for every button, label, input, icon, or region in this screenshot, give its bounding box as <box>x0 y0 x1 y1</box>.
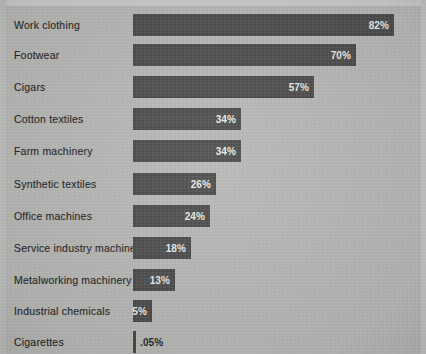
chart-row: Work clothing82% <box>6 14 421 36</box>
category-label: Industrial chemicals <box>14 305 110 317</box>
horizontal-bar-chart: Work clothing82%Footwear70%Cigars57%Cott… <box>6 6 421 354</box>
bar-value-label: 13% <box>150 275 170 286</box>
bar: 70% <box>133 44 356 66</box>
bar-value-label: 24% <box>185 211 205 222</box>
bar-value-label: 5% <box>132 306 147 317</box>
bar-value-label: 57% <box>289 82 309 93</box>
bar: 26% <box>133 173 216 195</box>
bar: 57% <box>133 76 314 98</box>
bar: 5% <box>133 300 152 322</box>
bar: 24% <box>133 205 210 227</box>
bar-value-label: 82% <box>369 20 389 31</box>
bar: 13% <box>133 269 175 291</box>
chart-row: Industrial chemicals5% <box>6 300 421 322</box>
bar-value-label: 26% <box>191 179 211 190</box>
category-label: Cigars <box>14 81 46 93</box>
chart-screenshot: Work clothing82%Footwear70%Cigars57%Cott… <box>0 0 426 354</box>
chart-row: Cigars57% <box>6 76 421 98</box>
chart-row: Footwear70% <box>6 44 421 66</box>
category-label: Footwear <box>14 49 59 61</box>
category-label: Farm machinery <box>14 145 93 157</box>
chart-row: Farm machinery34% <box>6 140 421 162</box>
chart-row: Metalworking machinery13% <box>6 269 421 291</box>
chart-row: Synthetic textiles26% <box>6 173 421 195</box>
category-label: Service industry machines <box>14 242 142 254</box>
chart-row: Service industry machines18% <box>6 237 421 259</box>
bar: .05% <box>133 331 136 353</box>
category-label: Office machines <box>14 210 92 222</box>
chart-row: Office machines24% <box>6 205 421 227</box>
paper-right-edge <box>421 0 426 354</box>
bar: 18% <box>133 237 191 259</box>
category-label: Cotton textiles <box>14 113 84 125</box>
bar: 34% <box>133 108 241 130</box>
bar-value-label: 34% <box>216 114 236 125</box>
bar: 82% <box>133 14 394 36</box>
bar-value-label: 70% <box>331 50 351 61</box>
category-label: Synthetic textiles <box>14 178 96 190</box>
bar: 34% <box>133 140 241 162</box>
category-label: Metalworking machinery <box>14 274 132 286</box>
bar-value-label: .05% <box>140 337 163 348</box>
chart-row: Cotton textiles34% <box>6 108 421 130</box>
chart-row: Cigarettes.05% <box>6 331 421 353</box>
bar-value-label: 34% <box>216 146 236 157</box>
bar-value-label: 18% <box>166 243 186 254</box>
category-label: Work clothing <box>14 19 80 31</box>
category-label: Cigarettes <box>14 336 64 348</box>
